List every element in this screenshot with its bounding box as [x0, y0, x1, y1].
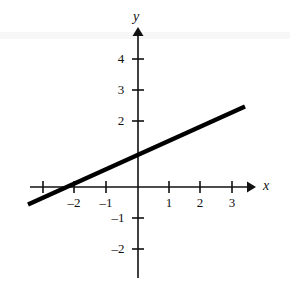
graph-figure: y x –2 –1 1 2 3 4 3 2 –1 –2	[0, 0, 290, 283]
y-tick-label-pos4: 4	[118, 51, 125, 67]
y-tick-label-neg1: –1	[112, 210, 125, 226]
x-axis-label: x	[263, 178, 269, 194]
x-tick-label-neg1: –1	[100, 195, 113, 211]
y-tick-label-pos3: 3	[118, 82, 125, 98]
cartesian-plot	[0, 0, 290, 283]
x-tick-label-pos3: 3	[229, 195, 236, 211]
y-axis-arrowhead	[133, 27, 144, 36]
x-axis-arrowhead	[247, 182, 256, 193]
y-axis-label: y	[133, 9, 139, 25]
x-tick-label-neg2: –2	[68, 195, 81, 211]
x-tick-label-pos2: 2	[197, 195, 204, 211]
x-tick-label-pos1: 1	[166, 195, 173, 211]
y-tick-label-pos2: 2	[118, 113, 125, 129]
y-tick-label-neg2: –2	[112, 241, 125, 257]
